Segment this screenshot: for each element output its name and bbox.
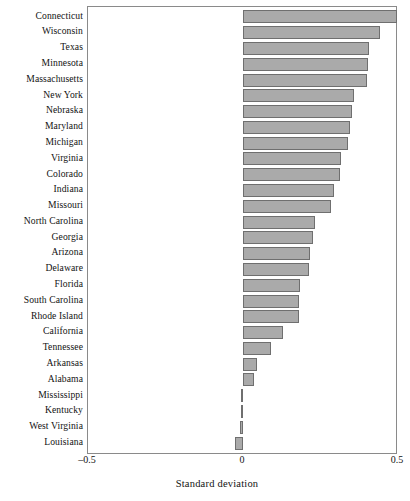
category-label: Mississippi: [0, 390, 83, 400]
bar: [243, 121, 350, 134]
x-tick-label-min: –0.5: [78, 454, 96, 466]
bar: [243, 26, 380, 39]
bar: [235, 437, 243, 450]
bar: [243, 326, 283, 339]
category-label: Wisconsin: [0, 26, 83, 36]
bar: [241, 405, 243, 418]
plot-area: [87, 6, 397, 454]
category-label: West Virginia: [0, 421, 83, 431]
bar: [243, 200, 331, 213]
bar: [243, 42, 369, 55]
bar: [243, 231, 313, 244]
bar: [243, 342, 271, 355]
category-label: Indiana: [0, 184, 83, 194]
bar: [243, 89, 354, 102]
bar: [243, 168, 340, 181]
bar: [243, 152, 341, 165]
category-label: Arkansas: [0, 358, 83, 368]
bar: [243, 373, 254, 386]
category-label: South Carolina: [0, 295, 83, 305]
category-label: Colorado: [0, 169, 83, 179]
bar: [241, 389, 243, 402]
bar: [243, 216, 315, 229]
category-label: California: [0, 326, 83, 336]
category-label: Nebraska: [0, 105, 83, 115]
bar-chart: ConnecticutWisconsinTexasMinnesotaMassac…: [0, 0, 410, 501]
bar: [240, 421, 243, 434]
category-label: Arizona: [0, 247, 83, 257]
category-label: Tennessee: [0, 342, 83, 352]
category-label: New York: [0, 90, 83, 100]
category-label: Missouri: [0, 200, 83, 210]
category-label: Texas: [0, 42, 83, 52]
bar: [243, 247, 310, 260]
bar: [243, 74, 367, 87]
bar: [243, 105, 352, 118]
category-label: Connecticut: [0, 11, 83, 21]
bar: [243, 279, 300, 292]
category-label: Michigan: [0, 137, 83, 147]
bars-layer: [88, 7, 396, 453]
x-tick-label-zero: 0: [240, 454, 245, 466]
x-axis-title: Standard deviation: [0, 478, 410, 489]
category-axis-labels: ConnecticutWisconsinTexasMinnesotaMassac…: [0, 0, 83, 445]
bar: [243, 263, 309, 276]
bar: [243, 58, 368, 71]
bar: [243, 295, 299, 308]
x-axis-ticks: –0.5 0 0.5: [0, 454, 410, 474]
category-label: Kentucky: [0, 405, 83, 415]
category-label: Georgia: [0, 232, 83, 242]
category-label: Rhode Island: [0, 311, 83, 321]
bar: [243, 10, 397, 23]
category-label: Virginia: [0, 153, 83, 163]
bar: [243, 184, 334, 197]
category-label: North Carolina: [0, 216, 83, 226]
x-axis-title-text: Standard deviation: [176, 478, 259, 489]
category-label: Minnesota: [0, 58, 83, 68]
x-tick-label-max: 0.5: [391, 454, 404, 466]
category-label: Delaware: [0, 263, 83, 273]
bar: [243, 137, 348, 150]
bar: [243, 310, 299, 323]
category-label: Florida: [0, 279, 83, 289]
category-label: Maryland: [0, 121, 83, 131]
category-label: Alabama: [0, 374, 83, 384]
category-label: Louisiana: [0, 437, 83, 447]
category-label: Massachusetts: [0, 74, 83, 84]
bar: [243, 358, 257, 371]
